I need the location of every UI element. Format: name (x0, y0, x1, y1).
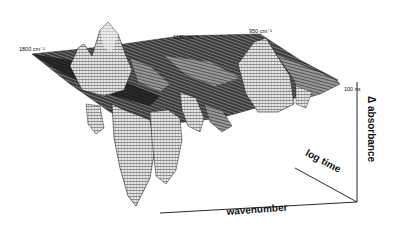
wavenumber-marker-1190: 1190 cm⁻¹ (173, 34, 199, 40)
surface-negative-trough (86, 104, 182, 206)
time-axis-line (295, 168, 357, 202)
surface-950-peak (238, 38, 340, 112)
wavenumber-marker-1800: 1800 cm⁻¹ (19, 46, 45, 52)
wavenumber-marker-950: 950 cm⁻¹ (249, 28, 272, 34)
y-axis-label: Δ absorbance (366, 96, 377, 162)
surface-plot-figure: 1800 cm⁻¹ 1190 cm⁻¹ 950 cm⁻¹ 100 ns Δ ab… (0, 0, 395, 249)
time-marker-100ns: 100 ns (344, 86, 361, 92)
